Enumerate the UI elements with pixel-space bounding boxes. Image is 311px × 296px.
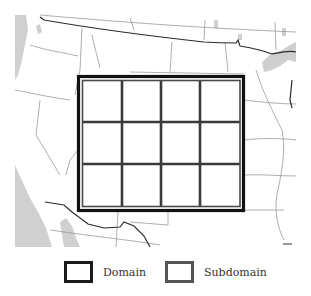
legend-item-domain: Domain [64, 259, 146, 285]
subdomain-swatch-icon [165, 261, 194, 283]
corner-mark [283, 243, 292, 245]
legend-label-subdomain: Subdomain [204, 266, 267, 279]
legend-item-subdomain: Subdomain [165, 259, 267, 285]
us-map [0, 0, 311, 250]
domain-swatch-icon [64, 261, 93, 283]
legend: Domain Subdomain [0, 250, 311, 296]
legend-label-domain: Domain [103, 266, 146, 279]
